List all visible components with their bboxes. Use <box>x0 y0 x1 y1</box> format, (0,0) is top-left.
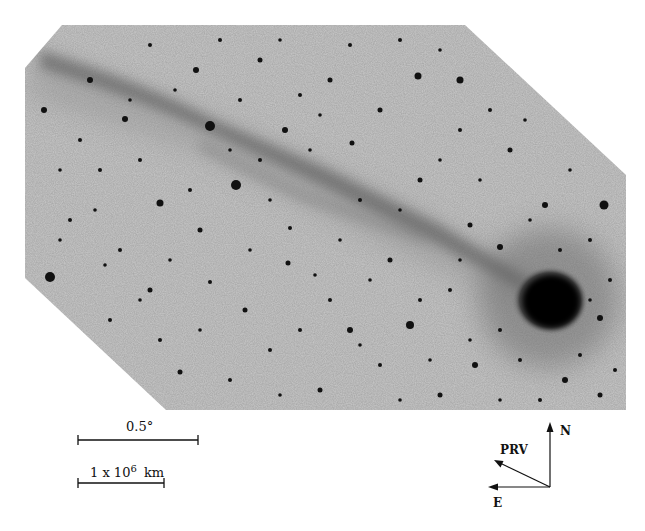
star-field <box>0 0 645 531</box>
compass-label-east: E <box>493 496 502 510</box>
comet-image <box>0 0 645 531</box>
scale-label-unit: km <box>144 465 164 480</box>
compass-label-north: N <box>560 424 571 438</box>
east-arrow-icon <box>488 484 498 491</box>
north-arrow-icon <box>547 422 554 432</box>
scale-bar-angular <box>78 435 198 445</box>
comet-figure: 0.5° 1 x 106 km N E PRV <box>0 0 645 531</box>
compass-label-prv: PRV <box>500 443 528 457</box>
scale-label-distance: 1 x 106 km <box>90 463 164 480</box>
scale-label-prefix: 1 x 10 <box>90 465 130 480</box>
scale-label-angular: 0.5° <box>126 419 153 434</box>
prv-arrow-icon <box>494 460 504 468</box>
scale-label-exponent: 6 <box>130 463 136 474</box>
